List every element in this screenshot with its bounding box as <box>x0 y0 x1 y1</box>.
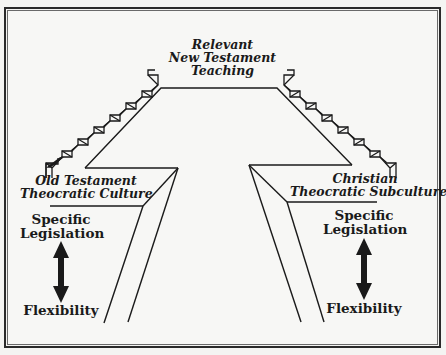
left-specific-legislation-label: Specific Legislation <box>20 212 102 240</box>
left-double-arrow-icon <box>53 241 69 303</box>
nt-teaching-label: Relevant New Testament Teaching <box>150 38 295 77</box>
ot-culture-label: Old Testament Theocratic Culture <box>20 174 152 200</box>
left-specific-line: Specific <box>20 212 102 226</box>
right-specific-line: Specific <box>323 208 405 222</box>
left-stairs-icon <box>46 70 158 178</box>
right-specific-legislation-label: Specific Legislation <box>323 208 405 236</box>
nt-teaching-line-3: Teaching <box>150 64 295 77</box>
left-flexibility-label: Flexibility <box>20 303 102 317</box>
christian-subculture-label: Christian Theocratic Subculture <box>290 172 440 198</box>
right-flexibility-label: Flexibility <box>323 301 405 315</box>
right-stairs-icon <box>284 70 396 178</box>
ot-culture-line-2: Theocratic Culture <box>20 187 152 200</box>
christian-subculture-line-2: Theocratic Subculture <box>290 185 440 198</box>
right-legislation-line: Legislation <box>323 222 405 236</box>
left-legislation-line: Legislation <box>20 226 102 240</box>
nt-plateau-shape <box>85 88 352 168</box>
right-double-arrow-icon <box>356 238 372 300</box>
